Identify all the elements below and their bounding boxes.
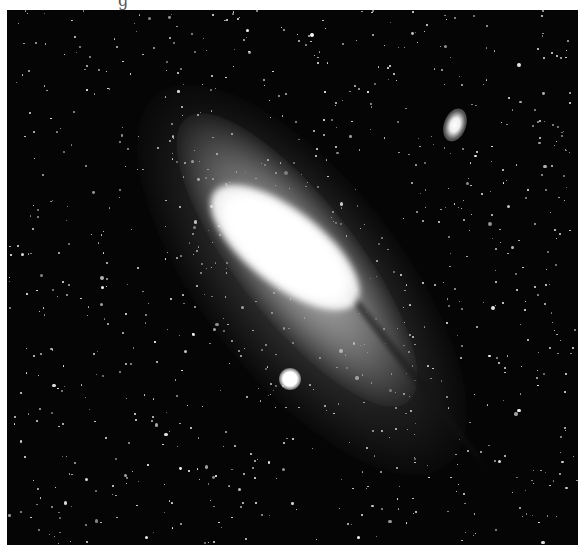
satellite-galaxy-lower	[279, 368, 301, 390]
satellite-galaxy-upper	[439, 105, 471, 144]
galaxy-photo	[7, 10, 578, 545]
cutoff-text-glyph: g	[118, 0, 128, 10]
